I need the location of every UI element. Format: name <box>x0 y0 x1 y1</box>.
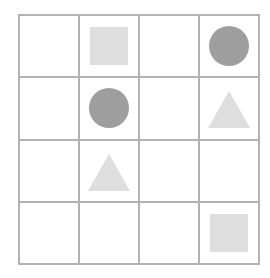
grid-cell-r3c4[interactable] <box>200 141 260 203</box>
grid-cell-r3c3[interactable] <box>140 141 200 203</box>
grid-cell-r2c4[interactable] <box>200 78 260 140</box>
grid-cell-r4c2[interactable] <box>80 203 140 265</box>
grid-cell-r1c1[interactable] <box>20 16 80 78</box>
grid-cell-r1c2[interactable] <box>80 16 140 78</box>
grid-cell-r4c1[interactable] <box>20 203 80 265</box>
grid-cell-r1c3[interactable] <box>140 16 200 78</box>
grid-cell-r4c4[interactable] <box>200 203 260 265</box>
circle-icon <box>89 88 129 128</box>
grid-cell-r2c3[interactable] <box>140 78 200 140</box>
grid-cell-r3c1[interactable] <box>20 141 80 203</box>
square-icon <box>90 27 128 65</box>
grid-cell-r3c2[interactable] <box>80 141 140 203</box>
triangle-icon <box>88 154 130 191</box>
shape-grid <box>18 14 260 265</box>
square-icon <box>210 214 248 252</box>
circle-icon <box>209 26 249 66</box>
grid-cell-r2c1[interactable] <box>20 78 80 140</box>
grid-cell-r4c3[interactable] <box>140 203 200 265</box>
grid-cell-r2c2[interactable] <box>80 78 140 140</box>
grid-cell-r1c4[interactable] <box>200 16 260 78</box>
puzzle-canvas <box>0 0 270 278</box>
triangle-icon <box>208 91 250 128</box>
